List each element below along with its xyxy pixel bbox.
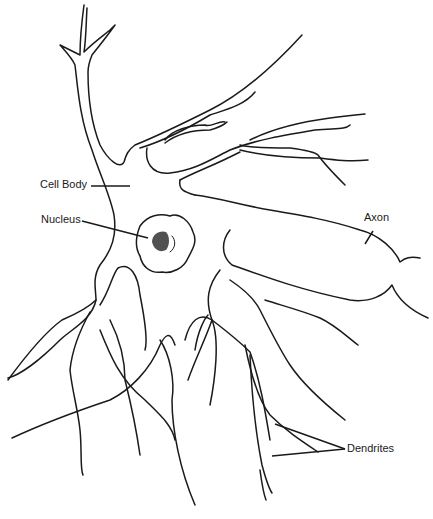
label-axon: Axon	[364, 212, 389, 223]
label-nucleus: Nucleus	[41, 214, 81, 225]
lower-dendrites	[8, 267, 358, 505]
dendrites-leader-upper	[275, 424, 345, 449]
axon-outline	[195, 195, 428, 318]
cell-body-outline	[8, 5, 302, 380]
dendrites-leader-lower	[272, 449, 345, 456]
label-dendrites: Dendrites	[347, 443, 394, 454]
nucleus-shape	[136, 215, 195, 273]
upper-dendrites	[140, 92, 368, 195]
label-cell-body: Cell Body	[40, 179, 87, 190]
